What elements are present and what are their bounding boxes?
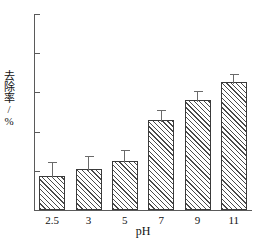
error-bar-stem xyxy=(52,163,53,178)
bar xyxy=(76,169,102,210)
error-bar-cap xyxy=(121,150,130,151)
error-bar-cap xyxy=(157,110,166,111)
y-axis-title: 去除率/% xyxy=(2,0,16,196)
bar xyxy=(148,120,174,210)
error-bar-stem xyxy=(88,157,89,171)
error-bar-cap xyxy=(85,156,94,157)
x-axis-title: pH xyxy=(34,224,252,239)
bar xyxy=(221,82,247,210)
error-bar-stem xyxy=(233,75,234,84)
bar xyxy=(185,100,211,210)
y-axis-title-label: 去除率/% xyxy=(1,70,17,127)
error-bar-stem xyxy=(197,92,198,102)
bar-chart: 去除率/% 020406080100 2.5357911 pH xyxy=(0,0,256,241)
x-axis-line xyxy=(34,210,252,211)
plot-area: 020406080100 2.5357911 xyxy=(34,14,252,210)
error-bar-stem xyxy=(124,151,125,163)
error-bar-cap xyxy=(194,91,203,92)
bars-layer xyxy=(34,14,252,210)
bar xyxy=(39,176,65,210)
error-bar-cap xyxy=(230,74,239,75)
error-bar-cap xyxy=(48,162,57,163)
y-tick-mark xyxy=(35,210,40,211)
error-bar-stem xyxy=(161,111,162,122)
bar xyxy=(112,161,138,210)
